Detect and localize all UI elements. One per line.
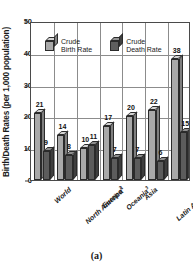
bar-value-label: 6 bbox=[158, 149, 162, 156]
figure-caption: (a) bbox=[0, 250, 193, 261]
y-tick-mark-10 bbox=[25, 149, 29, 150]
bar-value-label: 15 bbox=[181, 120, 189, 127]
bar-birth-rate bbox=[126, 116, 133, 180]
bar-birth-rate bbox=[171, 59, 178, 180]
x-tick-label-world: World bbox=[53, 186, 73, 205]
bar-death-rate bbox=[65, 155, 72, 180]
legend-label-line2: Death Rate bbox=[126, 46, 161, 53]
bar-value-label: 14 bbox=[59, 123, 67, 130]
plot-area: Crude Birth Rate Crude Death Rate 219148… bbox=[30, 22, 190, 181]
y-tick-mark-50 bbox=[25, 22, 29, 23]
bar-birth-rate bbox=[80, 148, 87, 180]
y-tick-mark-20 bbox=[25, 117, 29, 118]
bar-birth-rate bbox=[103, 126, 110, 180]
legend-label-line1: Crude bbox=[126, 38, 145, 45]
bar-value-label: 8 bbox=[67, 143, 71, 150]
figure-panel-a: Birth/Death Rates (per 1,000 population)… bbox=[0, 0, 193, 273]
y-tick-mark-30 bbox=[25, 85, 29, 86]
legend-label-crude-birth-rate: Crude Birth Rate bbox=[61, 37, 92, 54]
x-tick-label-europe: Europe2 bbox=[101, 186, 126, 209]
bar-value-label: 7 bbox=[136, 146, 140, 153]
bar-death-rate bbox=[43, 151, 50, 180]
bar-death-rate bbox=[88, 145, 95, 180]
y-axis-title-container: Birth/Death Rates (per 1,000 population) bbox=[0, 16, 14, 188]
bar-value-label: 20 bbox=[127, 104, 135, 111]
legend-label-line1: Crude bbox=[61, 38, 80, 45]
x-tick-label-latin-america: Latin Americaand theCaribbean bbox=[175, 186, 193, 234]
y-tick-mark-0 bbox=[25, 181, 29, 182]
y-tick-mark-40 bbox=[25, 53, 29, 54]
bar-birth-rate bbox=[34, 113, 41, 180]
bar-group: 3815 bbox=[168, 23, 190, 180]
bar-death-rate bbox=[134, 158, 141, 180]
legend-item-crude-death-rate: Crude Death Rate bbox=[110, 37, 161, 54]
bar-death-rate bbox=[111, 158, 118, 180]
x-axis-labels: World North America1 Europe2 Oceania3 As… bbox=[0, 183, 193, 245]
bar-death-rate bbox=[180, 132, 187, 180]
bar-value-label: 10 bbox=[81, 136, 89, 143]
legend: Crude Birth Rate Crude Death Rate bbox=[45, 37, 162, 54]
bar-value-label: 21 bbox=[36, 101, 44, 108]
bar-value-label: 38 bbox=[173, 47, 181, 54]
bar-birth-rate bbox=[57, 135, 64, 180]
bar-value-label: 9 bbox=[44, 139, 48, 146]
legend-label-crude-death-rate: Crude Death Rate bbox=[126, 37, 161, 54]
cube-light-icon bbox=[45, 37, 58, 51]
bar-value-label: 11 bbox=[90, 133, 97, 140]
bar-death-rate bbox=[157, 161, 164, 180]
bar-birth-rate bbox=[148, 110, 155, 180]
legend-label-line2: Birth Rate bbox=[61, 46, 92, 53]
cube-dark-icon bbox=[110, 37, 123, 51]
bar-value-label: 17 bbox=[104, 114, 112, 121]
bar-value-label: 22 bbox=[150, 98, 158, 105]
bar-value-label: 7 bbox=[113, 146, 117, 153]
legend-item-crude-birth-rate: Crude Birth Rate bbox=[45, 37, 92, 54]
